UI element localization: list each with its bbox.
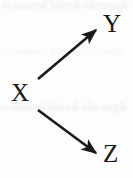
node-label-z: Z [103, 141, 118, 166]
node-label-x: X [11, 80, 29, 105]
figure-canvas: scanned bleed-through scanned bleed-thro… [0, 0, 133, 178]
edge-x-to-y [38, 30, 96, 79]
edge-x-to-z [38, 110, 96, 153]
node-label-y: Y [103, 11, 121, 36]
